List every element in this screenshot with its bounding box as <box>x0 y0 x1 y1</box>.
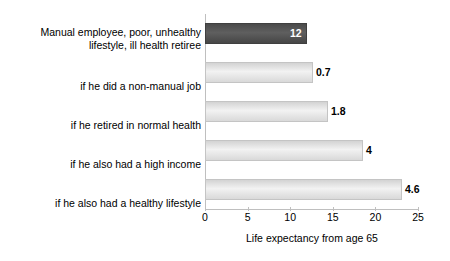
table-row: 12 <box>205 14 418 53</box>
x-tick-label: 25 <box>412 211 424 223</box>
bar-value-label: 4 <box>366 141 372 160</box>
bar <box>205 101 328 122</box>
table-row: 4.6 <box>205 170 418 209</box>
x-tick-label: 5 <box>245 211 251 223</box>
category-label: if he retired in normal health <box>8 119 201 132</box>
bar-chart: Manual employee, poor, unhealthy lifesty… <box>0 0 450 261</box>
x-axis-line <box>205 209 419 210</box>
bar <box>205 179 402 200</box>
bar-rows: 12 0.7 1.8 4 4.6 <box>205 14 418 209</box>
bar-value-label: 0.7 <box>316 63 331 82</box>
category-label: if he did a non-manual job <box>8 80 201 93</box>
bar-value-label: 4.6 <box>405 180 420 199</box>
bar <box>205 140 363 161</box>
table-row: 0.7 <box>205 53 418 92</box>
category-label: Manual employee, poor, unhealthy lifesty… <box>8 26 201 51</box>
category-label-list: Manual employee, poor, unhealthy lifesty… <box>8 14 201 209</box>
plot-area: 12 0.7 1.8 4 4.6 <box>205 14 418 209</box>
x-tick-label: 0 <box>202 211 208 223</box>
category-label: if he also had a high income <box>8 158 201 171</box>
table-row: 1.8 <box>205 92 418 131</box>
bar-value-label: 12 <box>290 24 302 43</box>
bar-value-label: 1.8 <box>331 102 346 121</box>
x-tick-label: 15 <box>327 211 339 223</box>
table-row: 4 <box>205 131 418 170</box>
category-label: if he also had a healthy lifestyle <box>8 197 201 210</box>
bar <box>205 62 313 83</box>
x-axis-tick-list: 0 5 10 15 20 25 <box>205 211 419 227</box>
x-tick-label: 20 <box>370 211 382 223</box>
x-axis-title: Life expectancy from age 65 <box>205 232 419 244</box>
x-tick-label: 10 <box>284 211 296 223</box>
